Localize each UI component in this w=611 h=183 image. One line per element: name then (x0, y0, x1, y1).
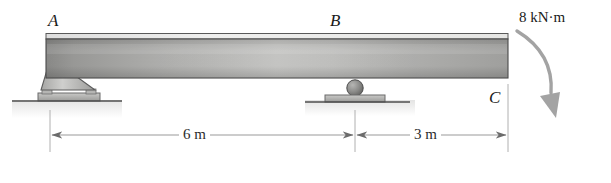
roller-support (305, 80, 410, 102)
dimension-label-3m: 3 m (410, 127, 441, 142)
label-point-a: A (48, 12, 58, 29)
ground-shadow-pin (12, 100, 122, 118)
beam-diagram-figure: A B C 8 kN·m 6 m 3 m (0, 0, 611, 183)
diagram-canvas (0, 0, 611, 183)
moment-arrowhead (540, 92, 560, 118)
label-point-b: B (330, 12, 340, 29)
moment-arrow (517, 31, 560, 118)
beam-top-strip (46, 34, 508, 40)
label-point-c: C (489, 89, 500, 106)
roller-ball (347, 80, 363, 96)
dimension-label-6m: 6 m (179, 127, 210, 142)
roller-plate (325, 95, 385, 102)
beam (46, 34, 508, 79)
moment-load-label: 8 kN·m (519, 10, 565, 25)
